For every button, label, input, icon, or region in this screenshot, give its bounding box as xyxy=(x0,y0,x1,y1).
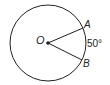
center-label: O xyxy=(36,34,45,46)
point-b-label: B xyxy=(83,58,90,69)
radius-ob xyxy=(48,43,82,60)
point-a-label: A xyxy=(83,19,91,30)
center-point xyxy=(46,41,50,45)
radius-oa xyxy=(48,28,83,43)
circle-diagram: O A B 50° xyxy=(0,0,110,85)
arc-measure-label: 50° xyxy=(87,38,102,49)
